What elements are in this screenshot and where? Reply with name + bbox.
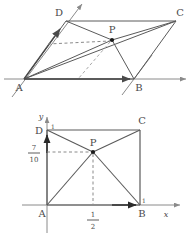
label-vertex-B-lower: B [138, 208, 145, 219]
label-x-axis: x [164, 210, 169, 219]
label-y-axis: y [38, 112, 44, 121]
label-point-P: P [109, 24, 116, 35]
label-vertex-C: C [176, 7, 184, 18]
upper-figure-parallelogram: A B C D P [0, 0, 191, 110]
fraction-one-half-numerator: 1 [91, 211, 95, 219]
square-segment-PB [93, 152, 140, 205]
tick-label-y-one: 1 [51, 123, 55, 130]
label-point-P-lower: P [90, 137, 97, 148]
point-P-marker-lower [91, 150, 95, 154]
fraction-seven-tenths-numerator: 7 [32, 144, 36, 152]
tick-label-x-one: 1 [142, 197, 146, 204]
square-segment-AP [47, 152, 93, 205]
figure-stack: A B C D P [0, 0, 191, 235]
lower-figure-svg: A B C D P y x 1 1 7 10 1 2 [0, 105, 191, 235]
square-segment-DP [47, 130, 93, 152]
label-vertex-B: B [135, 82, 142, 93]
label-vertex-A: A [14, 82, 23, 93]
point-P-marker [110, 38, 114, 42]
label-vertex-A-lower: A [37, 208, 46, 219]
dashed-horizontal-projection [48, 41, 110, 44]
lower-figure-unit-square: A B C D P y x 1 1 7 10 1 2 [0, 105, 191, 235]
fraction-one-half-denominator: 2 [91, 223, 95, 231]
label-vertex-D: D [55, 7, 63, 18]
fraction-one-half: 1 2 [87, 211, 99, 231]
segment-PC [112, 21, 176, 40]
square-segment-PC [93, 130, 140, 152]
segment-PB [112, 40, 134, 79]
segment-DP [66, 21, 112, 40]
label-vertex-C-lower: C [138, 115, 146, 126]
upper-figure-svg: A B C D P [0, 0, 191, 110]
label-vertex-D-lower: D [35, 125, 43, 136]
segment-BC [134, 21, 176, 79]
fraction-seven-tenths-denominator: 10 [30, 156, 39, 164]
fraction-seven-tenths: 7 10 [28, 144, 40, 164]
